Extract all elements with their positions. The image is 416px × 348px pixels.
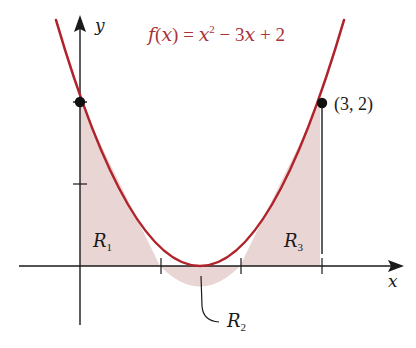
region-label-r2: R2	[226, 310, 246, 333]
area-between-curve-diagram: f(x) = x2 − 3x + 2 y x (3, 2) R1 R2 R3	[0, 0, 416, 348]
point-3-2	[317, 98, 327, 108]
region-r2-fill	[160, 266, 240, 287]
point-label-3-2: (3, 2)	[334, 94, 373, 115]
y-axis-label: y	[94, 15, 105, 35]
x-axis-label: x	[388, 271, 398, 291]
function-label: f(x) = x2 − 3x + 2	[146, 23, 285, 46]
